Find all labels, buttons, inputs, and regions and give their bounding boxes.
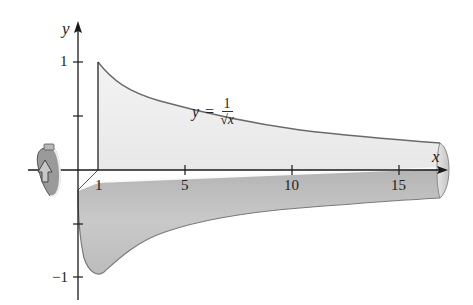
lower-surface (78, 168, 445, 274)
x-tick-label-5: 5 (181, 178, 189, 193)
y-tick-label-neg-1: −1 (52, 270, 68, 285)
equation-fraction: 1 √x (220, 96, 234, 128)
curve-equation: y = 1 √x (192, 96, 234, 128)
equation-lhs: y (192, 103, 199, 121)
y-tick-label-1: 1 (60, 54, 68, 69)
x-tick-label-10: 10 (284, 178, 299, 193)
x-axis-label: x (432, 148, 440, 165)
equation-equals: = (205, 103, 214, 121)
horn-figure (0, 0, 473, 305)
rotation-arrow-icon (37, 144, 60, 196)
x-tick-label-1: 1 (95, 178, 103, 193)
upper-surface (98, 62, 444, 170)
y-axis-label: y (62, 20, 70, 37)
x-tick-label-15: 15 (391, 178, 406, 193)
equation-denominator: √x (220, 112, 234, 128)
equation-numerator: 1 (222, 96, 233, 112)
